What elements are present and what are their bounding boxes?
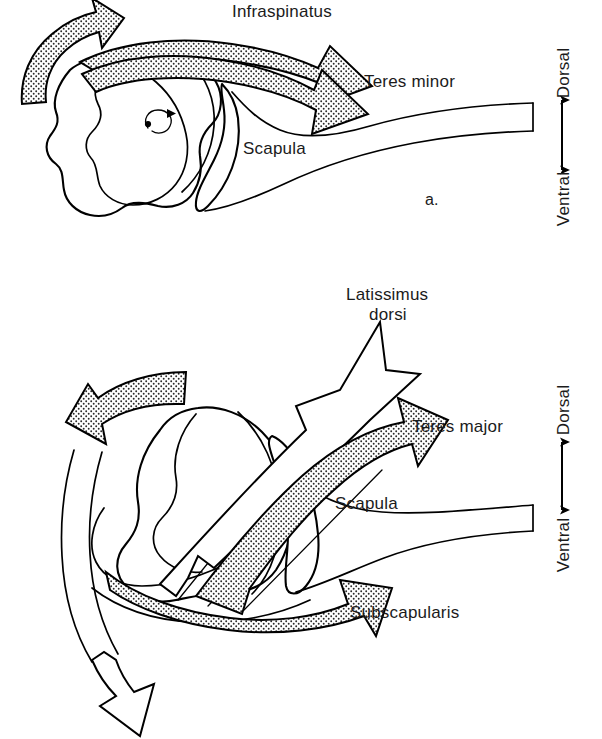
scapula-blade-upper-edge-a: [232, 92, 533, 136]
humerus-shaft-inner-margin-b: [90, 452, 119, 654]
label-ventral-a: Ventral: [554, 172, 573, 226]
panel-label-a: a.: [425, 191, 438, 208]
panel-b: Latissimus dorsi Teres major Scapula Sub…: [62, 285, 574, 736]
humerus-shaft-outer-margin-b: [62, 450, 93, 662]
label-scapula-b: Scapula: [335, 494, 398, 513]
label-latissimus-dorsi-line1: Latissimus: [346, 285, 428, 304]
label-dorsal-a: Dorsal: [554, 48, 573, 98]
panel-a: Infraspinatus Teres minor Scapula a. Dor…: [22, 0, 573, 226]
label-subscapularis: Subscapularis: [350, 603, 459, 622]
label-ventral-b: Ventral: [554, 518, 573, 572]
label-scapula-a: Scapula: [243, 139, 306, 158]
anatomy-figure: Infraspinatus Teres minor Scapula a. Dor…: [0, 0, 602, 739]
label-latissimus-dorsi-line2: dorsi: [369, 305, 407, 324]
diagram-canvas: Infraspinatus Teres minor Scapula a. Dor…: [0, 0, 602, 739]
label-dorsal-b: Dorsal: [554, 385, 573, 435]
orientation-axis-b: Dorsal Ventral: [554, 385, 573, 572]
label-infraspinatus: Infraspinatus: [232, 2, 332, 21]
scapula-blade-lower-edge-b: [296, 531, 533, 592]
label-teres-minor: Teres minor: [364, 72, 455, 91]
humeral-abduction-arrow-b: [92, 652, 154, 736]
label-teres-major: Teres major: [412, 417, 503, 436]
orientation-axis-a: Dorsal Ventral: [554, 48, 573, 226]
